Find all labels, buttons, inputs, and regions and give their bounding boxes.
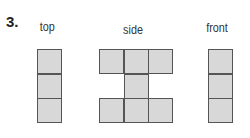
view-label-side: side [123, 23, 143, 37]
grid-cell [208, 74, 233, 99]
grid-cell [148, 49, 173, 74]
grid-cell [124, 74, 149, 99]
grid-cell [37, 49, 62, 74]
problem-number: 3. [6, 13, 19, 30]
grid-cell [99, 49, 124, 74]
grid-cell [124, 98, 149, 123]
grid-cell [148, 98, 173, 123]
grid-cell [37, 74, 62, 99]
grid-cell [124, 49, 149, 74]
view-label-front: front [206, 21, 228, 35]
grid-cell [208, 49, 233, 74]
grid-cell [99, 98, 124, 123]
grid-cell [37, 98, 62, 123]
grid-cell [208, 98, 233, 123]
view-label-top: top [40, 20, 55, 34]
